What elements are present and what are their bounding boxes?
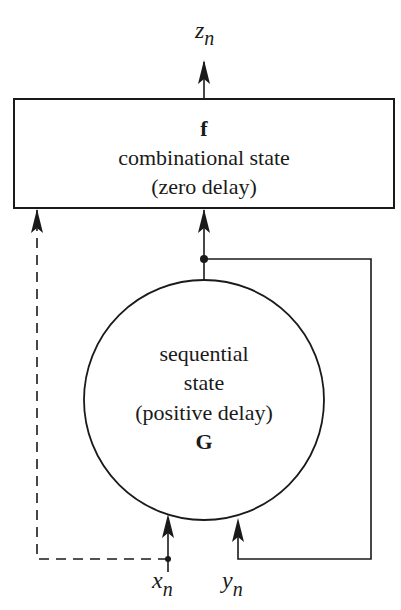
sequential-function-symbol: G: [195, 429, 212, 454]
combinational-function-symbol: f: [200, 116, 208, 141]
sequential-label-line1: sequential: [159, 341, 248, 366]
output-arrow: [198, 60, 210, 99]
input-y-label: yn: [220, 567, 243, 600]
sequential-label-line3: (positive delay): [135, 400, 272, 425]
combinational-label-line2: (zero delay): [151, 174, 257, 199]
input-x-arrow: [162, 514, 174, 572]
sequential-label-line2: state: [184, 370, 224, 395]
combinational-label-line1: combinational state: [118, 145, 290, 170]
sequential-to-combinational-arrow: [198, 209, 210, 280]
state-machine-diagram: zn f combinational state (zero delay) se…: [0, 0, 401, 610]
input-x-label: xn: [151, 567, 173, 600]
output-label: zn: [194, 17, 214, 49]
